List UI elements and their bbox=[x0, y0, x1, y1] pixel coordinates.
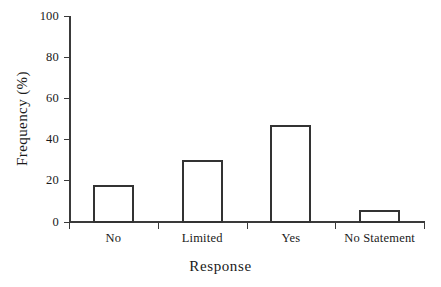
x-axis-tick bbox=[247, 223, 248, 229]
x-axis-tick bbox=[335, 223, 336, 229]
bar bbox=[182, 160, 223, 223]
y-axis-line bbox=[69, 16, 71, 223]
bar bbox=[359, 210, 400, 223]
bar-chart-figure: 020406080100 NoLimitedYesNo Statement Fr… bbox=[0, 0, 441, 287]
bar bbox=[93, 185, 134, 223]
x-axis-tick bbox=[158, 223, 159, 229]
y-axis-tick bbox=[64, 180, 70, 181]
bar bbox=[270, 125, 311, 223]
y-axis-tick-label: 0 bbox=[1, 216, 59, 229]
y-axis-tick bbox=[64, 16, 70, 17]
x-axis-tick bbox=[69, 223, 70, 229]
x-axis-category-label: No Statement bbox=[320, 231, 440, 245]
y-axis-tick-label: 100 bbox=[1, 10, 59, 23]
y-axis-tick bbox=[64, 57, 70, 58]
y-axis-tick bbox=[64, 98, 70, 99]
y-axis-title: Frequency (%) bbox=[14, 29, 31, 209]
x-axis-tick bbox=[424, 223, 425, 229]
y-axis-tick bbox=[64, 139, 70, 140]
x-axis-title: Response bbox=[0, 258, 441, 275]
